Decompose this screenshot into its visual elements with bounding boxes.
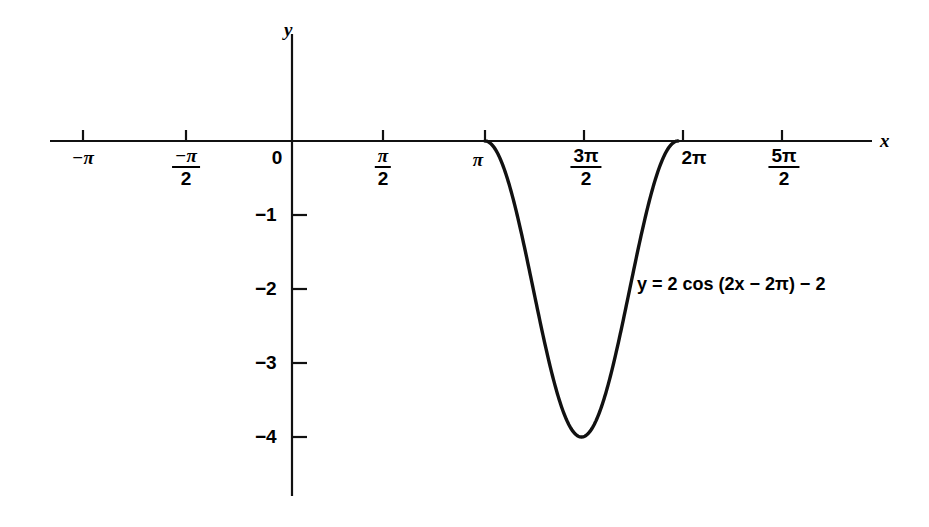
y-tick-label-neg-4: −4 (255, 427, 277, 446)
y-tick-label-neg-3: −3 (255, 353, 277, 372)
x-tick-text: 2π (681, 147, 706, 168)
y-tick-text: −3 (255, 352, 277, 373)
x-tick-label-5pi-over-2: 5π 2 (768, 146, 799, 188)
curve-equation-label: y = 2 cos (2x − 2π) − 2 (637, 275, 825, 293)
fraction: 3π 2 (570, 146, 601, 188)
equation-text: y = 2 cos (2x − 2π) − 2 (637, 274, 825, 294)
fraction-numerator: −π (172, 146, 200, 168)
fraction-denominator: 2 (570, 168, 601, 188)
figure-canvas: y x −π −π 2 0 π 2 π 3π 2 2π 5π 2 (0, 0, 929, 527)
x-tick-label-3pi-over-2: 3π 2 (570, 146, 601, 188)
fraction-denominator: 2 (375, 168, 391, 188)
fraction-numerator: 5π (768, 146, 799, 168)
x-tick-text: π (473, 149, 483, 170)
fraction: −π 2 (172, 146, 200, 188)
y-tick-text: −2 (255, 278, 277, 299)
fraction-denominator: 2 (768, 168, 799, 188)
x-tick-label-neg-pi: −π (72, 148, 94, 167)
y-tick-text: −4 (255, 426, 277, 447)
x-tick-label-zero: 0 (272, 148, 283, 167)
y-tick-text: −1 (255, 204, 277, 225)
fraction-numerator: π (375, 146, 391, 168)
x-tick-label-pi-over-2: π 2 (375, 146, 391, 188)
fraction-denominator: 2 (172, 168, 200, 188)
fraction-numerator: 3π (570, 146, 601, 168)
x-tick-label-2pi: 2π (681, 148, 706, 167)
plot-svg (0, 0, 929, 527)
x-tick-text: 0 (272, 147, 283, 168)
y-tick-marks (292, 215, 307, 437)
x-tick-text: −π (72, 147, 94, 168)
y-axis-label: y (284, 20, 292, 39)
x-tick-label-pi: π (473, 150, 483, 169)
y-tick-label-neg-1: −1 (255, 205, 277, 224)
y-tick-label-neg-2: −2 (255, 279, 277, 298)
fraction: 5π 2 (768, 146, 799, 188)
fraction: π 2 (375, 146, 391, 188)
x-tick-label-neg-pi-over-2: −π 2 (172, 146, 200, 188)
x-axis-label: x (880, 131, 890, 150)
